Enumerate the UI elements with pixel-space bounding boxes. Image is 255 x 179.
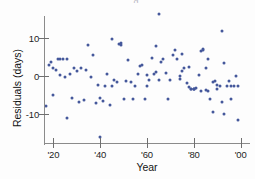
data-point (80, 66, 83, 69)
data-point (115, 80, 118, 83)
data-point (237, 119, 240, 122)
data-point (71, 96, 74, 99)
data-point (52, 94, 55, 97)
data-point (96, 83, 99, 86)
x-tick-mark (147, 138, 148, 148)
data-point (89, 75, 92, 78)
data-point (106, 73, 109, 76)
data-point (202, 49, 205, 52)
data-point (195, 86, 198, 89)
data-point (220, 101, 223, 104)
data-point (54, 68, 57, 71)
y-tick-mark (39, 38, 49, 39)
y-tick-label: 0 (34, 70, 39, 81)
data-point (122, 98, 125, 101)
data-point (134, 85, 137, 88)
data-point (136, 72, 139, 75)
y-tick-label: 10 (29, 33, 39, 44)
data-point (206, 89, 209, 92)
data-point (131, 97, 134, 100)
data-point (92, 53, 95, 56)
data-point (129, 80, 132, 83)
data-point (199, 89, 202, 92)
data-point (232, 85, 235, 88)
residuals-scatter-figure: g 100-10 '20'40'60'80'00 Residuals (days… (0, 0, 255, 179)
data-point (176, 57, 179, 60)
data-point (103, 85, 106, 88)
x-tick-label: '40 (94, 149, 106, 160)
data-point (206, 57, 209, 60)
data-point (78, 100, 81, 103)
data-point (101, 99, 104, 102)
data-point (164, 71, 167, 74)
y-tick-mark (39, 114, 49, 115)
data-point (167, 98, 170, 101)
x-tick-label: '60 (141, 149, 153, 160)
data-point (227, 80, 230, 83)
x-axis-title: Year (44, 161, 250, 173)
data-point (218, 85, 221, 88)
data-point (178, 77, 181, 80)
data-point (209, 97, 212, 100)
data-point (120, 43, 123, 46)
data-point (61, 58, 64, 61)
data-point (47, 64, 50, 67)
data-point (230, 97, 233, 100)
x-tick-mark (194, 138, 195, 148)
data-point (85, 68, 88, 71)
y-axis-line (44, 16, 45, 145)
data-point (211, 111, 214, 114)
data-point (110, 37, 113, 40)
data-point (160, 61, 163, 64)
y-tick-mark (39, 76, 49, 77)
data-point (223, 112, 226, 115)
data-point (155, 71, 158, 74)
data-point (150, 56, 153, 59)
data-point (75, 69, 78, 72)
data-point (66, 58, 69, 61)
data-point (181, 70, 184, 73)
x-tick-mark (100, 138, 101, 148)
data-point (94, 102, 97, 105)
data-point (213, 80, 216, 83)
x-tick-label: '20 (47, 149, 59, 160)
data-point (155, 45, 158, 48)
data-point (64, 75, 67, 78)
data-point (127, 59, 130, 62)
data-point (157, 13, 160, 16)
data-point (148, 79, 151, 82)
data-point (188, 65, 191, 68)
plot-area (44, 8, 250, 140)
data-point (181, 53, 184, 56)
x-tick-mark (241, 138, 242, 148)
data-point (171, 53, 174, 56)
data-point (87, 43, 90, 46)
y-tick-label: -10 (26, 108, 39, 119)
x-tick-mark (53, 138, 54, 148)
data-point (124, 80, 127, 83)
clipped-title-fragment: g (106, 0, 166, 3)
data-point (204, 67, 207, 70)
data-point (82, 99, 85, 102)
data-point (216, 88, 219, 91)
data-point (50, 61, 53, 64)
data-point (143, 97, 146, 100)
x-tick-label: '00 (235, 149, 247, 160)
data-point (234, 74, 237, 77)
data-point (141, 63, 144, 66)
data-point (162, 57, 165, 60)
data-point (157, 79, 160, 82)
data-point (68, 73, 71, 76)
data-point (197, 74, 200, 77)
data-point (59, 74, 62, 77)
data-point (45, 105, 48, 108)
data-point (108, 104, 111, 107)
data-point (169, 78, 172, 81)
data-point (237, 84, 240, 87)
data-point (146, 74, 149, 77)
data-point (225, 85, 228, 88)
data-point (183, 66, 186, 69)
data-point (174, 49, 177, 52)
data-point (146, 85, 149, 88)
y-axis-title: Residuals (days) (11, 33, 23, 143)
